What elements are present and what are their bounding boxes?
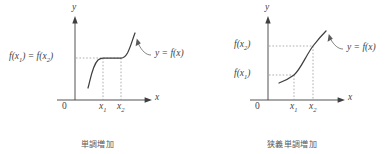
x-axis-label: x [348,92,352,102]
panel-strictly-monotone-increasing: y x 0 f(x2) f(x1) x1 x2 y = f(x) 狭義単調増加 [195,0,389,154]
y-value-label-fx2: f(x2) [234,39,250,51]
x-axis [250,97,345,102]
x-tick-label-x2: x2 [117,101,124,113]
annotation-leader [136,39,151,56]
y-axis-label: y [265,2,269,12]
y-value-label-fx1: f(x1) [234,68,250,80]
origin-label: 0 [255,101,260,111]
x-tick-label-x2: x2 [309,101,316,113]
y-value-label-fx1-eq-fx2: f(x1) = f(x2) [9,51,53,63]
curve-annotation-y-equals-fx: y = f(x) [155,48,184,58]
x-tick-label-x1: x1 [290,101,297,113]
panel-monotone-increasing: y x 0 f(x1) = f(x2) x1 x2 y = f(x) 単調増加 [0,0,195,154]
x-axis-label: x [155,92,159,102]
panel-caption-strictly-monotone-increasing: 狭義単調増加 [195,140,389,150]
guide-lines [76,58,121,100]
plot-monotone-increasing [0,0,195,130]
x-tick-label-x1: x1 [99,101,106,113]
annotation-leader [328,34,343,49]
y-axis-label: y [72,2,76,12]
panel-caption-monotone-increasing: 単調増加 [0,140,195,150]
origin-label: 0 [62,101,67,111]
guide-lines [269,46,313,100]
function-curve [88,33,135,88]
figure-canvas: y x 0 f(x1) = f(x2) x1 x2 y = f(x) 単調増加 [0,0,389,154]
y-axis [265,16,270,100]
curve-annotation-y-equals-fx: y = f(x) [347,42,376,52]
